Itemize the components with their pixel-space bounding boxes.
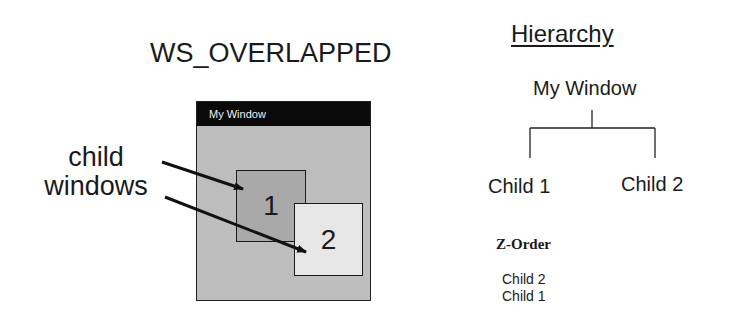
hierarchy-heading: Hierarchy xyxy=(511,20,614,48)
z-order-item-2: Child 1 xyxy=(502,288,546,304)
z-order-heading: Z-Order xyxy=(496,236,551,253)
z-order-item-1: Child 2 xyxy=(502,271,546,287)
hierarchy-child-1: Child 1 xyxy=(488,175,550,198)
hierarchy-tree-lines xyxy=(530,110,655,158)
arrows-and-tree-lines xyxy=(0,0,742,332)
arrow-to-child-2 xyxy=(165,197,306,252)
hierarchy-child-2: Child 2 xyxy=(621,173,683,196)
arrow-to-child-1 xyxy=(162,162,243,189)
hierarchy-root: My Window xyxy=(533,77,636,100)
